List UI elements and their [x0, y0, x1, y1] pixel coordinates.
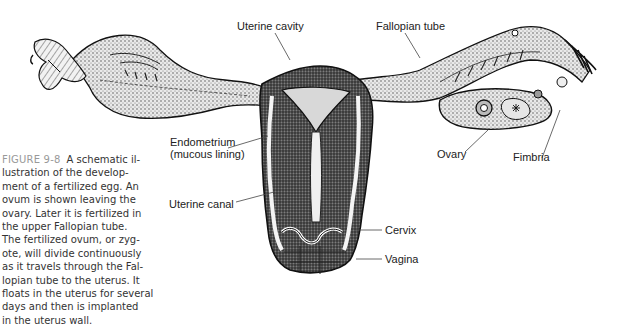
- label-cervix: Cervix: [385, 224, 416, 236]
- label-fimbria: Fimbria: [513, 151, 550, 163]
- caption-line: FIGURE 9-8A schematic il-: [2, 153, 170, 166]
- uterus: [260, 66, 373, 274]
- label-vagina: Vagina: [385, 253, 418, 265]
- figure-caption: FIGURE 9-8A schematic il- lustration of …: [2, 153, 170, 327]
- caption-line: ote, will divide continuously: [2, 247, 170, 260]
- caption-line: as it travels through the Fal-: [2, 260, 170, 273]
- caption-line: lustration of the develop-: [2, 166, 170, 179]
- caption-line: floats in the uterus for several: [2, 287, 170, 300]
- label-uterine-canal: Uterine canal: [169, 198, 234, 210]
- caption-line: days and then is implanted: [2, 300, 170, 313]
- caption-line: lopian tube to the uterus. It: [2, 274, 170, 287]
- figure-number: FIGURE 9-8: [2, 154, 61, 165]
- caption-line: ment of a fertilized egg. An: [2, 180, 170, 193]
- left-fallopian-tube: [72, 35, 272, 118]
- caption-line: the upper Fallopian tube.: [2, 220, 170, 233]
- label-uterine-cavity: Uterine cavity: [237, 20, 304, 32]
- label-ovary: Ovary: [437, 148, 466, 160]
- caption-line: in the uterus wall.: [2, 314, 170, 327]
- caption-line: ovum is shown leaving the: [2, 193, 170, 206]
- caption-line: The fertilized ovum, or zyg-: [2, 233, 170, 246]
- label-fallopian-tube: Fallopian tube: [376, 20, 445, 32]
- left-fimbria: [31, 39, 86, 89]
- caption-line: ovary. Later it is fertilized in: [2, 207, 170, 220]
- label-endometrium: Endometrium: [170, 136, 235, 148]
- label-endometrium-sub: (mucous lining): [170, 148, 245, 160]
